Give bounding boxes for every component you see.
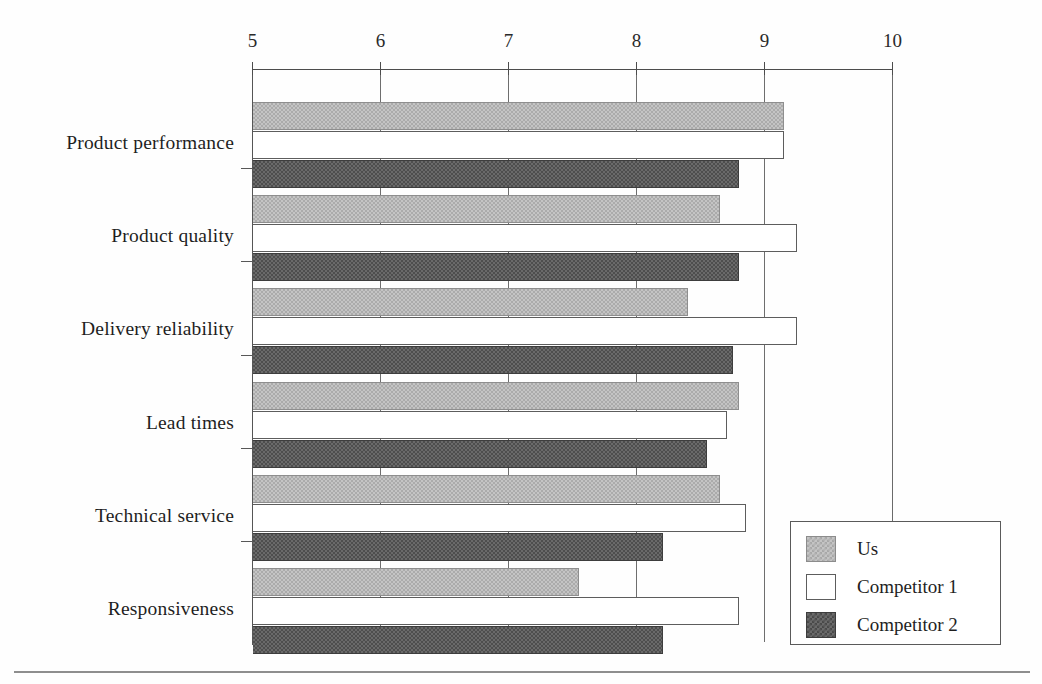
x-axis-tick-label: 9 <box>745 30 785 52</box>
bar-us <box>253 195 720 223</box>
y-axis-tick <box>241 261 253 262</box>
x-axis-tick-label: 8 <box>617 30 657 52</box>
y-axis-tick <box>241 541 253 542</box>
bar-us <box>253 475 720 503</box>
bar-competitor-1 <box>253 131 784 159</box>
x-axis-line <box>252 69 893 70</box>
x-axis-tick-label: 7 <box>489 30 529 52</box>
x-axis-tick <box>252 62 253 75</box>
x-axis-tick <box>636 62 637 75</box>
bar-competitor-1 <box>253 411 727 439</box>
category-label: Product quality <box>111 225 234 247</box>
bar-competitor-1 <box>253 597 739 625</box>
category-label: Technical service <box>95 505 234 527</box>
x-axis-tick <box>508 62 509 75</box>
x-axis-tick-label: 10 <box>873 30 913 52</box>
bar-competitor-2 <box>253 533 663 561</box>
bar-us <box>253 102 784 130</box>
legend-label: Us <box>857 538 878 560</box>
bar-competitor-1 <box>253 224 797 252</box>
bar-us <box>253 288 688 316</box>
category-label: Product performance <box>66 132 234 154</box>
bar-competitor-1 <box>253 504 746 532</box>
y-axis-tick <box>241 448 253 449</box>
category-label: Delivery reliability <box>81 318 234 340</box>
bar-competitor-2 <box>253 253 739 281</box>
legend-item-competitor-2[interactable]: Competitor 2 <box>791 608 1000 642</box>
bar-competitor-1 <box>253 317 797 345</box>
legend-swatch-icon <box>806 612 836 638</box>
y-axis-tick <box>241 355 253 356</box>
legend-item-competitor-1[interactable]: Competitor 1 <box>791 570 1000 604</box>
x-axis-tick-label: 6 <box>361 30 401 52</box>
chart-legend: UsCompetitor 1Competitor 2 <box>790 521 1001 645</box>
bar-us <box>253 382 739 410</box>
page-bottom-rule <box>14 671 1030 673</box>
y-axis-tick <box>241 168 253 169</box>
legend-label: Competitor 1 <box>857 576 958 598</box>
x-axis-tick <box>892 62 893 75</box>
legend-item-us[interactable]: Us <box>791 532 1000 566</box>
bar-us <box>253 568 579 596</box>
legend-swatch-icon <box>806 574 836 600</box>
category-label: Responsiveness <box>108 598 234 620</box>
x-axis-tick <box>380 62 381 75</box>
bar-competitor-2 <box>253 626 663 654</box>
x-axis-tick-label: 5 <box>233 30 273 52</box>
plot-right-boundary-line <box>892 69 893 523</box>
legend-swatch-icon <box>806 536 836 562</box>
bar-competitor-2 <box>253 160 739 188</box>
category-label: Lead times <box>146 412 234 434</box>
chart-page: 5678910Product performanceProduct qualit… <box>0 0 1042 684</box>
gridline <box>764 75 765 642</box>
bar-competitor-2 <box>253 346 733 374</box>
legend-label: Competitor 2 <box>857 614 958 636</box>
x-axis-tick <box>764 62 765 75</box>
bar-competitor-2 <box>253 440 707 468</box>
